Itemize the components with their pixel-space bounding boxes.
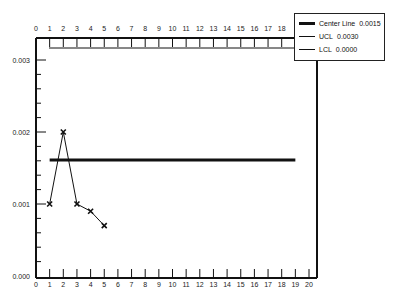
legend-item-center-line: Center Line 0.0015 [299, 18, 381, 28]
x-tick-label: 3 [75, 281, 79, 288]
x-marker-icon [102, 223, 107, 228]
x-tick-label-top: 2 [61, 25, 65, 32]
x-tick-label-top: 1 [48, 25, 52, 32]
x-tick-label: 8 [143, 281, 147, 288]
legend-item-ucl: UCL 0.0030 [299, 31, 358, 41]
legend-value: 0.0030 [337, 33, 358, 40]
data-line [50, 132, 105, 226]
ucl-swatch [299, 36, 315, 37]
x-tick-label-top: 0 [34, 25, 38, 32]
x-tick-label: 11 [183, 281, 190, 288]
legend-item-lcl: LCL 0.0000 [299, 44, 357, 54]
x-tick-label: 19 [291, 281, 299, 288]
x-tick-label-top: 10 [169, 25, 177, 32]
x-tick-label-top: 17 [264, 25, 272, 32]
x-tick-label-top: 11 [183, 25, 190, 32]
x-tick-label: 20 [305, 281, 313, 288]
y-tick-label: 0.003 [12, 57, 30, 64]
center-line-swatch [299, 22, 315, 25]
x-tick-label: 0 [34, 281, 38, 288]
x-tick-label-top: 12 [196, 25, 204, 32]
legend-label: Center Line [319, 20, 355, 27]
legend-label: LCL [319, 46, 332, 53]
x-tick-label: 18 [278, 281, 286, 288]
legend-value: 0.0015 [359, 20, 380, 27]
legend-label: UCL [319, 33, 333, 40]
x-tick-label: 9 [157, 281, 161, 288]
x-tick-label: 13 [210, 281, 218, 288]
x-tick-label: 17 [264, 281, 272, 288]
x-tick-label-top: 16 [251, 25, 259, 32]
x-tick-label-top: 4 [89, 25, 93, 32]
x-tick-label: 4 [89, 281, 93, 288]
legend-value: 0.0000 [336, 46, 357, 53]
x-tick-label-top: 9 [157, 25, 161, 32]
x-tick-label: 10 [169, 281, 177, 288]
y-tick-label: 0.000 [12, 273, 30, 280]
chart-legend: Center Line 0.0015 UCL 0.0030 LCL 0.0000 [294, 13, 385, 61]
x-tick-label-top: 14 [223, 25, 231, 32]
x-tick-label: 7 [130, 281, 134, 288]
x-tick-label: 14 [223, 281, 231, 288]
x-tick-label-top: 8 [143, 25, 147, 32]
x-tick-label: 6 [116, 281, 120, 288]
y-tick-label: 0.001 [12, 201, 30, 208]
x-tick-label-top: 13 [210, 25, 218, 32]
x-tick-label-top: 3 [75, 25, 79, 32]
lcl-swatch [299, 49, 315, 50]
x-tick-label-top: 5 [102, 25, 106, 32]
x-tick-label-top: 6 [116, 25, 120, 32]
x-tick-label: 15 [237, 281, 245, 288]
x-marker-icon [88, 209, 93, 214]
x-tick-label: 12 [196, 281, 204, 288]
x-tick-label: 1 [48, 281, 52, 288]
x-tick-label: 2 [61, 281, 65, 288]
x-tick-label-top: 15 [237, 25, 245, 32]
x-tick-label-top: 7 [130, 25, 134, 32]
x-tick-label: 16 [251, 281, 259, 288]
x-tick-label: 5 [102, 281, 106, 288]
y-tick-label: 0.002 [12, 129, 30, 136]
x-tick-label-top: 18 [278, 25, 286, 32]
